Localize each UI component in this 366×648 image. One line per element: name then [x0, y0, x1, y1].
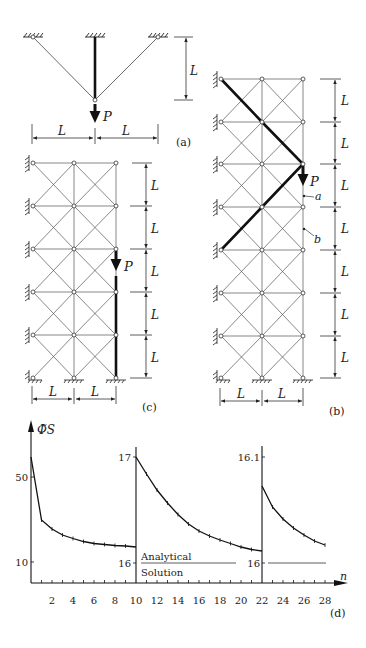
- load-label: P: [309, 174, 319, 189]
- fixed-support-icon: [23, 33, 168, 37]
- figure-a: P L L L (a): [23, 33, 198, 149]
- wall-support-icon: [25, 155, 126, 383]
- bar-left: [33, 37, 95, 100]
- x-axis-label: n: [340, 570, 347, 583]
- series-line-panel3: [262, 486, 325, 545]
- figure-b: P a b L L L L L L L: [213, 71, 349, 418]
- dim-label: L: [340, 308, 349, 322]
- dim-label: L: [150, 222, 159, 236]
- dimension-horizontal: [220, 388, 303, 406]
- dim-label: L: [340, 94, 349, 108]
- figure-label: (d): [330, 607, 346, 620]
- svg-text:20: 20: [235, 595, 248, 606]
- load-arrow-icon: [111, 251, 122, 271]
- series-line-panel2: [136, 457, 262, 551]
- dimension-vertical: [320, 79, 341, 378]
- dim-label: L: [189, 64, 198, 78]
- annotation-text: Solution: [141, 567, 184, 578]
- load-label: P: [102, 109, 112, 124]
- y-tick-label: 17: [118, 452, 131, 463]
- hinge-icon: [93, 98, 97, 102]
- figure-label: (c): [142, 401, 157, 414]
- dim-label: L: [340, 137, 349, 151]
- dim-label: L: [236, 387, 245, 401]
- dim-label: L: [150, 351, 159, 365]
- dimension-horizontal: [32, 124, 158, 144]
- svg-text:26: 26: [298, 595, 311, 606]
- y-tick-label: 50: [15, 472, 28, 483]
- svg-text:8: 8: [112, 595, 118, 606]
- svg-text:6: 6: [91, 595, 97, 606]
- data-ticks: [273, 505, 326, 547]
- series-line-panel1: [31, 457, 136, 547]
- dim-label: L: [90, 385, 99, 399]
- svg-text:12: 12: [151, 595, 164, 606]
- dim-label: L: [48, 385, 57, 399]
- svg-text:28: 28: [319, 595, 332, 606]
- data-ticks: [42, 518, 126, 548]
- truss-grid: [33, 163, 116, 378]
- y-tick-label: 16: [247, 558, 260, 569]
- dim-label: L: [340, 222, 349, 236]
- annotation-text: Analytical: [140, 551, 191, 562]
- svg-text:22: 22: [256, 595, 269, 606]
- y-tick-label: 16: [118, 558, 131, 569]
- load-arrow-icon: [90, 104, 101, 123]
- arrow-up-icon: [28, 420, 34, 432]
- dim-label: L: [150, 308, 159, 322]
- hinge-icon: [31, 35, 35, 39]
- figure-canvas: P L L L (a): [0, 0, 366, 648]
- dim-label: L: [121, 124, 130, 138]
- svg-text:2: 2: [49, 595, 55, 606]
- x-tick-labels: 2 4 6 8 10 12 14 16 18 20 22 24 26 28: [49, 595, 332, 606]
- svg-text:10: 10: [130, 595, 143, 606]
- y-tick-label: 10: [15, 557, 28, 568]
- figure-c: P L L L L L L L (c): [25, 155, 159, 414]
- hinge-nodes: [31, 161, 118, 380]
- dim-label: L: [150, 265, 159, 279]
- svg-text:18: 18: [214, 595, 227, 606]
- svg-text:14: 14: [172, 595, 185, 606]
- leader-line: [305, 196, 314, 197]
- svg-text:24: 24: [277, 595, 290, 606]
- dim-label: L: [340, 179, 349, 193]
- dim-label: L: [150, 179, 159, 193]
- figure-label: (b): [329, 405, 345, 418]
- figure-label: (a): [176, 136, 191, 149]
- dim-label: L: [277, 387, 286, 401]
- y-tick-label: 16.1: [238, 452, 260, 463]
- dim-label: L: [340, 265, 349, 279]
- data-ticks: [147, 472, 252, 552]
- svg-text:4: 4: [70, 595, 76, 606]
- dim-label: L: [57, 124, 66, 138]
- y-axis-label: Φ̃S: [37, 423, 55, 437]
- dimension-vertical: [130, 163, 152, 378]
- dimension-horizontal: [32, 386, 116, 404]
- point-a-marker: [303, 195, 305, 197]
- point-b-marker: [303, 228, 305, 230]
- point-a-label: a: [315, 190, 322, 203]
- hinge-icon: [156, 35, 160, 39]
- dim-label: L: [340, 351, 349, 365]
- load-label: P: [123, 259, 133, 274]
- chart-d: Φ̃S n 2 4 6 8 10 12: [15, 420, 348, 620]
- leader-line: [305, 229, 314, 236]
- point-b-label: b: [314, 233, 321, 246]
- svg-text:16: 16: [193, 595, 206, 606]
- bar-right: [95, 37, 158, 100]
